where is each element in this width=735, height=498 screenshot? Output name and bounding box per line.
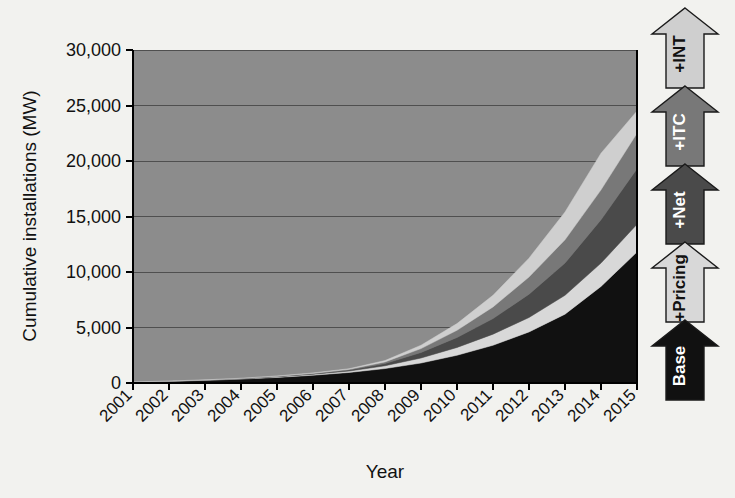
y-tick-label: 15,000 [66, 207, 121, 227]
y-axis-title: Cumulative installations (MW) [19, 90, 40, 341]
legend-arrow-label-int: +INT [670, 35, 689, 73]
legend-arrow-label-net: +Net [670, 191, 689, 229]
x-axis-title: Year [366, 461, 405, 482]
y-tick-label: 10,000 [66, 262, 121, 282]
legend-arrow-label-base: Base [670, 346, 689, 387]
y-tick-label: 20,000 [66, 151, 121, 171]
y-tick-label: 5,000 [76, 318, 121, 338]
legend-arrow-label-itc: +ITC [670, 113, 689, 150]
chart-figure: 30,00025,00020,00015,00010,0005,0000 200… [0, 0, 735, 498]
area-chart: 30,00025,00020,00015,00010,0005,0000 200… [0, 0, 735, 498]
legend-arrow-label-pricing: +Pricing [670, 254, 689, 322]
y-tick-label: 25,000 [66, 96, 121, 116]
y-tick-label: 30,000 [66, 40, 121, 60]
